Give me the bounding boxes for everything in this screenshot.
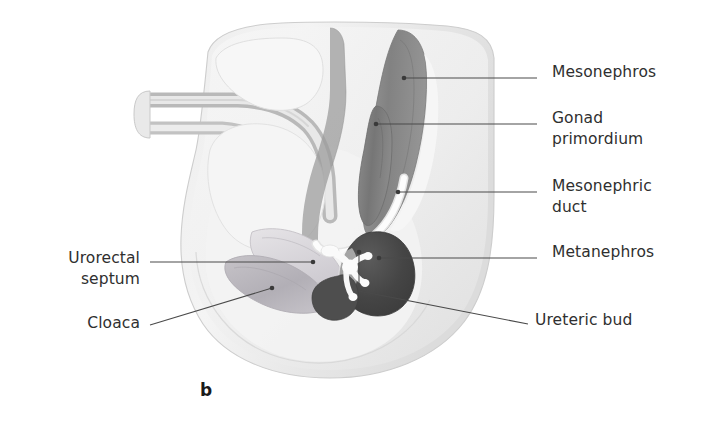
label-ureteric-bud: Ureteric bud	[535, 310, 632, 331]
label-metanephros: Metanephros	[552, 242, 654, 263]
label-mesonephros: Mesonephros	[552, 62, 656, 83]
anatomical-figure: Mesonephros Gonad primordium Mesonephric…	[0, 0, 705, 422]
label-urorectal-septum: Urorectal septum	[68, 248, 140, 290]
panel-letter: b	[200, 380, 212, 400]
label-gonad-primordium: Gonad primordium	[552, 108, 643, 150]
label-mesonephric-duct: Mesonephric duct	[552, 176, 652, 218]
label-cloaca: Cloaca	[87, 313, 140, 334]
